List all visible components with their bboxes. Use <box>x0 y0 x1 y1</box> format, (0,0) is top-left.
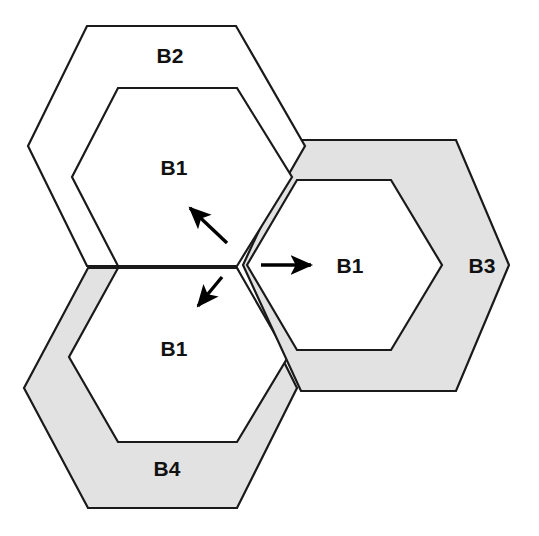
label-b4-outer: B4 <box>153 457 180 481</box>
label-b4-inner-b1: B1 <box>160 337 187 361</box>
label-b2-inner-b1: B1 <box>160 156 187 180</box>
hexagon-diagram-svg <box>0 0 539 536</box>
label-b3-outer: B3 <box>468 254 495 278</box>
label-b3-inner-b1: B1 <box>336 254 363 278</box>
label-b2-outer: B2 <box>156 44 183 68</box>
hexagon-diagram-canvas: B2 B1 B3 B1 B4 B1 <box>0 0 539 536</box>
